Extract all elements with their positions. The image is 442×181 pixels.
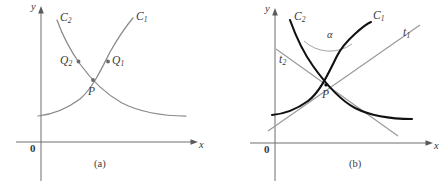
point-q1-a	[106, 60, 110, 64]
curve-label-c2-a-text: C	[60, 11, 68, 23]
curve-label-c2-a: C2	[60, 12, 72, 25]
y-axis-a	[38, 6, 44, 181]
tangent-line-t2	[276, 49, 398, 136]
angle-arc-alpha	[304, 41, 352, 51]
point-label-p-b: P	[322, 89, 329, 101]
panel-b: y x 0 C2 C1 t1 t2 α P (b)	[221, 0, 442, 181]
tangent-label-t1: t1	[403, 27, 410, 40]
x-axis-b	[250, 140, 433, 146]
origin-label-b: 0	[264, 144, 270, 155]
curve-label-c2-b-sub: 2	[302, 15, 306, 24]
point-label-q1-a-text: Q	[112, 54, 120, 66]
curve-label-c1-b: C1	[373, 10, 385, 23]
point-label-q1-a: Q1	[112, 55, 124, 68]
tangent-label-t2-sub: 2	[282, 58, 286, 67]
x-axis-label-b: x	[434, 141, 439, 152]
panel-a: y x 0 C2 C1 Q2 Q1 P (a)	[0, 0, 221, 181]
curve-label-c2-b-text: C	[294, 10, 302, 22]
point-p-b	[324, 83, 327, 86]
curve-label-c1-b-text: C	[373, 9, 381, 21]
curve-c2-b	[290, 20, 412, 119]
x-axis-label-a: x	[199, 140, 204, 151]
point-p-a	[91, 78, 95, 82]
point-label-p-a: P	[88, 86, 95, 98]
curve-label-c1-a-sub: 1	[144, 15, 148, 24]
angle-label-alpha: α	[327, 30, 333, 41]
y-axis-label-b: y	[265, 4, 270, 15]
caption-b: (b)	[349, 158, 361, 169]
curve-label-c1-a-text: C	[136, 10, 144, 22]
figure-container: y x 0 C2 C1 Q2 Q1 P (a)	[0, 0, 442, 181]
curve-label-c1-a: C1	[136, 11, 148, 24]
y-axis-b	[272, 8, 278, 181]
curve-label-c2-a-sub: 2	[68, 16, 72, 25]
curve-label-c1-b-sub: 1	[381, 14, 385, 23]
x-axis-a	[16, 139, 198, 145]
y-axis-label-a: y	[31, 2, 36, 13]
curve-label-c2-b: C2	[294, 11, 306, 24]
point-label-q1-a-sub: 1	[121, 59, 125, 68]
tangent-label-t1-sub: 1	[406, 31, 410, 40]
point-q2-a	[77, 60, 81, 64]
point-label-q2-a-text: Q	[60, 54, 68, 66]
tangent-line-t1	[268, 25, 420, 131]
tangent-label-t2: t2	[279, 54, 286, 67]
point-label-q2-a: Q2	[60, 55, 72, 68]
caption-a: (a)	[94, 158, 106, 169]
point-label-q2-a-sub: 2	[69, 59, 73, 68]
curve-c1-b	[272, 22, 371, 115]
origin-label-a: 0	[30, 143, 36, 154]
